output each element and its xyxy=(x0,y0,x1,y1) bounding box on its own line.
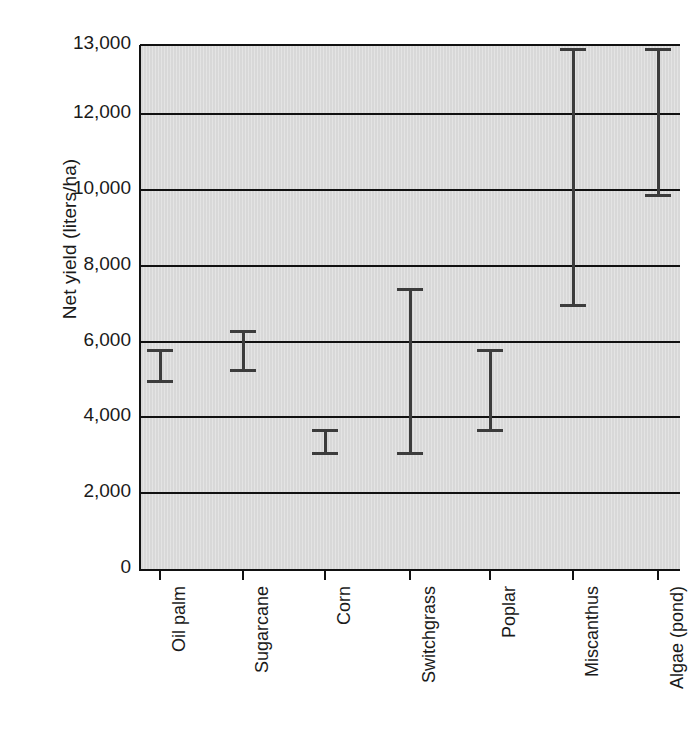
y-axis-line xyxy=(139,45,141,571)
gridline xyxy=(140,492,680,494)
error-bar-cap-lower xyxy=(645,194,671,197)
error-bar-cap-lower xyxy=(560,304,586,307)
y-axis-tick-label: 0 xyxy=(13,556,131,578)
error-bar-stem xyxy=(489,349,492,432)
y-axis-tick-label: 13,000 xyxy=(13,32,131,54)
y-axis-tick-label: 6,000 xyxy=(13,329,131,351)
error-bar-cap-lower xyxy=(477,429,503,432)
gridline xyxy=(140,44,680,46)
y-axis-tick-label: 12,000 xyxy=(13,101,131,123)
x-axis-tick-label: Poplar xyxy=(499,586,520,638)
x-axis-tick-label: Sugarcane xyxy=(252,586,273,673)
chart-figure: Net yield (liters/ha) 02,0004,0006,0008,… xyxy=(0,0,697,730)
x-axis-tick xyxy=(489,569,491,580)
y-axis-tick-label: 10,000 xyxy=(13,177,131,199)
x-axis-tick-label: Oil palm xyxy=(169,586,190,652)
error-bar-stem xyxy=(409,288,412,455)
y-axis-tick-labels: 02,0004,0006,0008,00010,00012,00013,000 xyxy=(0,0,131,730)
x-axis-tick xyxy=(657,569,659,580)
error-bar-cap-lower xyxy=(230,369,256,372)
gridline xyxy=(140,113,680,115)
x-axis-tick xyxy=(159,569,161,580)
error-bar-stem xyxy=(572,48,575,307)
error-bar-cap-lower xyxy=(397,452,423,455)
y-axis-tick-label: 2,000 xyxy=(13,480,131,502)
error-bar-cap-lower xyxy=(147,380,173,383)
x-axis-tick-label: Algae (pond) xyxy=(667,586,688,689)
gridline xyxy=(140,265,680,267)
x-axis-tick-label: Switchgrass xyxy=(419,586,440,683)
x-axis-tick xyxy=(242,569,244,580)
error-bar-cap-upper xyxy=(477,349,503,352)
error-bar-cap-upper xyxy=(312,429,338,432)
error-bar-cap-upper xyxy=(230,330,256,333)
error-bar-cap-upper xyxy=(397,288,423,291)
y-axis-tick-label: 4,000 xyxy=(13,404,131,426)
gridline xyxy=(140,189,680,191)
y-axis-tick-label: 8,000 xyxy=(13,253,131,275)
error-bar-cap-lower xyxy=(312,452,338,455)
error-bar-stem xyxy=(159,349,162,383)
error-bar-stem xyxy=(657,48,660,197)
error-bar-stem xyxy=(242,330,245,372)
x-axis-tick-label: Miscanthus xyxy=(582,586,603,677)
error-bar-cap-upper xyxy=(147,349,173,352)
x-axis-tick xyxy=(324,569,326,580)
x-axis-tick xyxy=(572,569,574,580)
x-axis-tick-label: Corn xyxy=(334,586,355,625)
error-bar-cap-upper xyxy=(645,48,671,51)
x-axis-tick xyxy=(409,569,411,580)
error-bar-cap-upper xyxy=(560,48,586,51)
